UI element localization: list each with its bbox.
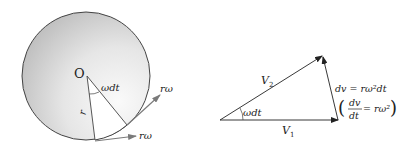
paren-left: ( (338, 97, 345, 118)
rate-rhs: = rω² (363, 103, 390, 114)
center-label: O (74, 66, 85, 81)
dv-equation: dv = rω²dt (335, 83, 387, 94)
velocity-triangle-figure: V2 V1 ωdt dv = rω²dt ( dv dt = rω² ) (220, 56, 397, 139)
rate-numerator: dv (349, 97, 361, 108)
v1-label: V1 (282, 124, 294, 139)
rate-equation: ( dv dt = rω² ) (338, 97, 397, 121)
rotating-disk-figure: O ωdt r rω rω (22, 12, 173, 141)
diagram-canvas: O ωdt r rω rω V2 V1 ωdt dv = rω²dt ( dv … (0, 0, 409, 151)
paren-right: ) (390, 97, 397, 118)
velocity-label-upper: rω (160, 83, 173, 94)
angle-label: ωdt (101, 82, 121, 93)
rate-denominator: dt (349, 110, 359, 121)
triangle-angle-label: ωdt (243, 107, 263, 118)
v2-label: V2 (261, 74, 273, 89)
velocity-label-lower: rω (139, 130, 152, 141)
